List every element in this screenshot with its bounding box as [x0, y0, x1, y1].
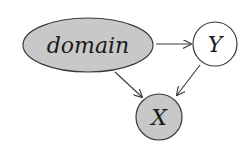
bayes-net-diagram: domain Y X — [0, 0, 246, 151]
node-domain-label: domain — [47, 33, 130, 58]
node-y: Y — [193, 22, 237, 66]
edge-y-to-x — [177, 65, 200, 95]
node-x: X — [136, 94, 182, 140]
edge-domain-to-x — [115, 72, 142, 97]
node-domain: domain — [23, 18, 153, 72]
node-x-label: X — [149, 105, 168, 130]
node-y-label: Y — [208, 32, 225, 57]
